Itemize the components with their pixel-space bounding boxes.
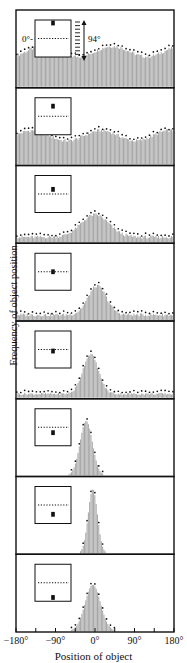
envelope-dot <box>172 312 174 314</box>
envelope-dot <box>160 234 162 236</box>
envelope-dot <box>28 234 30 236</box>
envelope-dot <box>110 129 112 131</box>
envelope-dot <box>145 312 147 314</box>
envelope-dot <box>94 357 96 359</box>
envelope-dot <box>28 313 30 315</box>
envelope-dot <box>78 221 80 223</box>
histogram-panel-stack: 0°-94° <box>0 0 187 663</box>
envelope-dot <box>102 214 104 216</box>
envelope-dot <box>133 138 135 140</box>
object-marker <box>51 104 55 109</box>
envelope-dot <box>125 391 127 393</box>
envelope-dot <box>164 48 166 50</box>
envelope-dot <box>110 301 112 303</box>
envelope-dot <box>106 618 108 620</box>
x-tick-label: 180° <box>165 635 184 646</box>
envelope-dot <box>137 137 139 139</box>
envelope-dot <box>24 311 26 313</box>
envelope-dot <box>59 137 61 139</box>
envelope-dot <box>114 391 116 393</box>
envelope-dot <box>164 311 166 313</box>
envelope-dot <box>86 592 88 594</box>
envelope-dot <box>75 460 77 462</box>
envelope-dot <box>102 129 104 131</box>
envelope-dot <box>63 390 65 392</box>
envelope-dot <box>90 350 92 352</box>
envelope-dot <box>114 131 116 133</box>
envelope-dot <box>98 593 100 595</box>
envelope-dot <box>55 311 57 313</box>
envelope-dot <box>98 126 100 128</box>
envelope-dot <box>153 232 155 234</box>
envelope-dot <box>110 44 112 46</box>
envelope-dot <box>160 129 162 131</box>
envelope-dot <box>82 424 84 426</box>
envelope-dot <box>133 232 135 234</box>
envelope-dot <box>129 312 131 314</box>
envelope-dot <box>141 51 143 53</box>
envelope-dot <box>43 311 45 313</box>
envelope-dot <box>71 469 73 471</box>
envelope-dot <box>63 231 65 233</box>
envelope-dot <box>28 391 30 393</box>
x-tick-label: 90° <box>128 635 142 646</box>
object-marker <box>51 187 55 192</box>
envelope-dot <box>32 390 34 392</box>
envelope-dot <box>39 232 41 234</box>
envelope-dot <box>16 391 18 393</box>
envelope-dot <box>75 384 77 386</box>
x-tick-label: −180° <box>4 635 29 646</box>
envelope-dot <box>156 234 158 236</box>
envelope-dot <box>117 131 119 133</box>
envelope-dot <box>94 210 96 212</box>
x-tick-label: 0° <box>91 635 100 646</box>
envelope-dot <box>106 293 108 295</box>
envelope-dot <box>168 44 170 46</box>
envelope-dot <box>102 379 104 381</box>
envelope-dot <box>51 235 53 237</box>
x-axis-label: Position of object <box>0 650 187 662</box>
envelope-dot <box>90 431 92 433</box>
envelope-dot <box>141 390 143 392</box>
envelope-dot <box>156 132 158 134</box>
envelope-dot <box>63 137 65 139</box>
envelope-dot <box>55 136 57 138</box>
envelope-dot <box>121 311 123 313</box>
envelope-dot <box>94 284 96 286</box>
envelope-dot <box>168 129 170 131</box>
envelope-dot <box>82 606 84 608</box>
envelope-dot <box>149 54 151 56</box>
envelope-dot <box>153 311 155 313</box>
envelope-dot <box>82 218 84 220</box>
envelope-dot <box>86 132 88 134</box>
envelope-dot <box>172 128 174 130</box>
envelope-dot <box>36 312 38 314</box>
envelope-dot <box>36 233 38 235</box>
envelope-dot <box>160 312 162 314</box>
envelope-dot <box>20 50 22 52</box>
envelope-dot <box>20 234 22 236</box>
envelope-dot <box>47 313 49 315</box>
envelope-dot <box>172 45 174 47</box>
envelope-dot <box>90 51 92 53</box>
envelope-dot <box>137 51 139 53</box>
envelope-dot <box>168 235 170 237</box>
envelope-dot <box>78 377 80 379</box>
envelope-dot <box>86 355 88 357</box>
envelope-dot <box>71 388 73 390</box>
envelope-dot <box>153 131 155 133</box>
envelope-dot <box>160 389 162 391</box>
envelope-dot <box>90 130 92 132</box>
envelope-dot <box>156 312 158 314</box>
envelope-dot <box>102 607 104 609</box>
envelope-dot <box>20 130 22 132</box>
envelope-dot <box>67 312 69 314</box>
envelope-dot <box>149 134 151 136</box>
envelope-dot <box>86 520 88 522</box>
envelope-dot <box>106 217 108 219</box>
envelope-dot <box>90 490 92 492</box>
envelope-dot <box>86 215 88 217</box>
envelope-dot <box>75 224 77 226</box>
envelope-dot <box>98 465 100 467</box>
envelope-dot <box>141 310 143 312</box>
